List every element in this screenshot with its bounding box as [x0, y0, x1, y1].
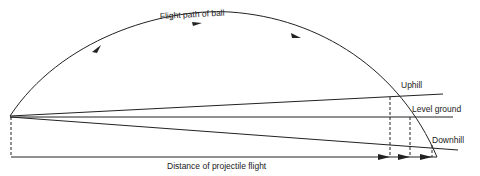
arrowhead-icon: [291, 33, 301, 38]
distance-label: Distance of projectile flight: [167, 161, 267, 171]
flight-path-label: Flight path of ball: [160, 8, 225, 21]
level-ground-label: Level ground: [412, 104, 461, 114]
projectile-diagram: Flight path of ball Uphill Level ground …: [0, 0, 480, 176]
downhill-label: Downhill: [432, 135, 464, 145]
flight-path-curve: [10, 12, 437, 157]
downhill-line: [10, 117, 458, 150]
arrowhead-icon: [378, 154, 390, 160]
arrowhead-icon: [192, 22, 202, 26]
uphill-label: Uphill: [401, 80, 422, 90]
arrowhead-icon: [92, 45, 101, 53]
arrowhead-icon: [420, 154, 432, 160]
uphill-line: [10, 94, 443, 116]
arrowhead-icon: [398, 154, 410, 160]
